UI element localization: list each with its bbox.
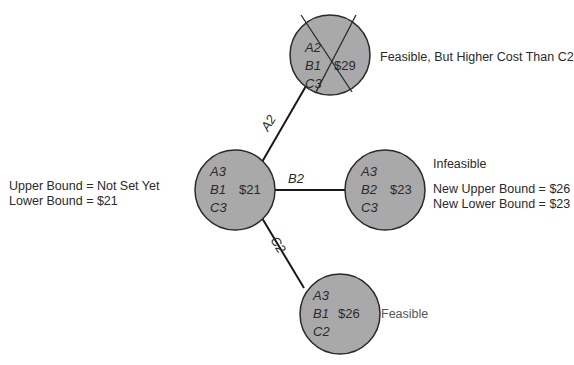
node-c2: A3 B1 C2 $26 bbox=[300, 274, 380, 354]
b2-status: Infeasible bbox=[433, 157, 570, 172]
root-upper-bound: Upper Bound = Not Set Yet bbox=[9, 179, 159, 194]
node-c2-line-3: C2 bbox=[313, 324, 330, 339]
root-lower-bound: Lower Bound = $21 bbox=[9, 194, 159, 209]
node-b2-cost: $23 bbox=[390, 182, 412, 197]
node-root-line-3: C3 bbox=[210, 200, 227, 215]
node-c2-line-2: B1 bbox=[313, 306, 329, 321]
node-c2-cost: $26 bbox=[338, 306, 360, 321]
edge-label-b2: B2 bbox=[288, 171, 305, 186]
node-b2-line-2: B2 bbox=[361, 182, 378, 197]
node-c2-line-1: A3 bbox=[312, 288, 330, 303]
node-a2-line-2: B1 bbox=[305, 58, 321, 73]
edge-label-c2: C2 bbox=[267, 234, 289, 257]
b2-new-lower-bound: New Lower Bound = $23 bbox=[433, 197, 570, 212]
node-b2-line-1: A3 bbox=[360, 164, 378, 179]
a2-status: Feasible, But Higher Cost Than C2 bbox=[380, 50, 574, 65]
b2-new-upper-bound: New Upper Bound = $26 bbox=[433, 182, 570, 197]
node-root-cost: $21 bbox=[239, 182, 261, 197]
node-root: A3 B1 C3 $21 bbox=[195, 150, 275, 230]
a2-note: Feasible, But Higher Cost Than C2 bbox=[380, 50, 574, 65]
node-a2: A2 B1 C3 $29 bbox=[290, 15, 370, 95]
edge-label-a2: A2 bbox=[257, 112, 279, 135]
node-b2: A3 B2 C3 $23 bbox=[345, 150, 425, 230]
b2-note: Infeasible New Upper Bound = $26 New Low… bbox=[433, 157, 570, 212]
edge-root-c2 bbox=[262, 218, 304, 288]
c2-status: Feasible bbox=[381, 307, 428, 322]
node-b2-line-3: C3 bbox=[361, 200, 378, 215]
c2-note: Feasible bbox=[381, 307, 428, 322]
node-root-line-1: A3 bbox=[209, 164, 227, 179]
node-root-line-2: B1 bbox=[210, 182, 226, 197]
root-note: Upper Bound = Not Set Yet Lower Bound = … bbox=[9, 179, 159, 209]
